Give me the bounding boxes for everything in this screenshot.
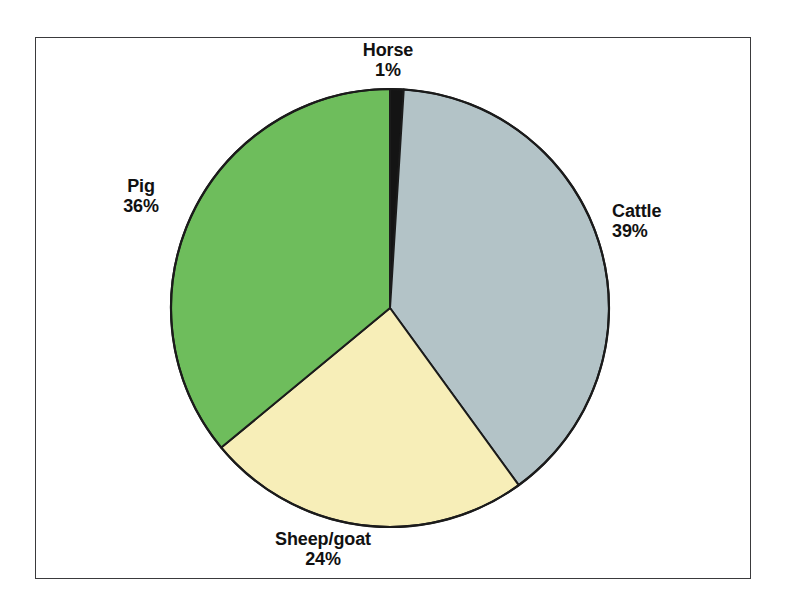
pie-label-pig-name: Pig <box>96 176 186 196</box>
pie-label-horse: Horse 1% <box>313 40 463 80</box>
pie-label-horse-name: Horse <box>313 40 463 60</box>
pie-label-sheepgoat-value: 24% <box>208 549 438 569</box>
pie-label-sheepgoat: Sheep/goat 24% <box>208 529 438 569</box>
pie-label-horse-value: 1% <box>313 60 463 80</box>
pie-label-sheepgoat-name: Sheep/goat <box>208 529 438 549</box>
pie-label-cattle-value: 39% <box>612 221 732 241</box>
pie-label-pig: Pig 36% <box>96 176 186 216</box>
pie-label-cattle: Cattle 39% <box>612 201 732 241</box>
figure-root: Horse 1% Cattle 39% Pig 36% Sheep/goat 2… <box>0 0 788 613</box>
pie-label-pig-value: 36% <box>96 196 186 216</box>
pie-label-cattle-name: Cattle <box>612 201 732 221</box>
chart-frame-border <box>35 37 751 579</box>
